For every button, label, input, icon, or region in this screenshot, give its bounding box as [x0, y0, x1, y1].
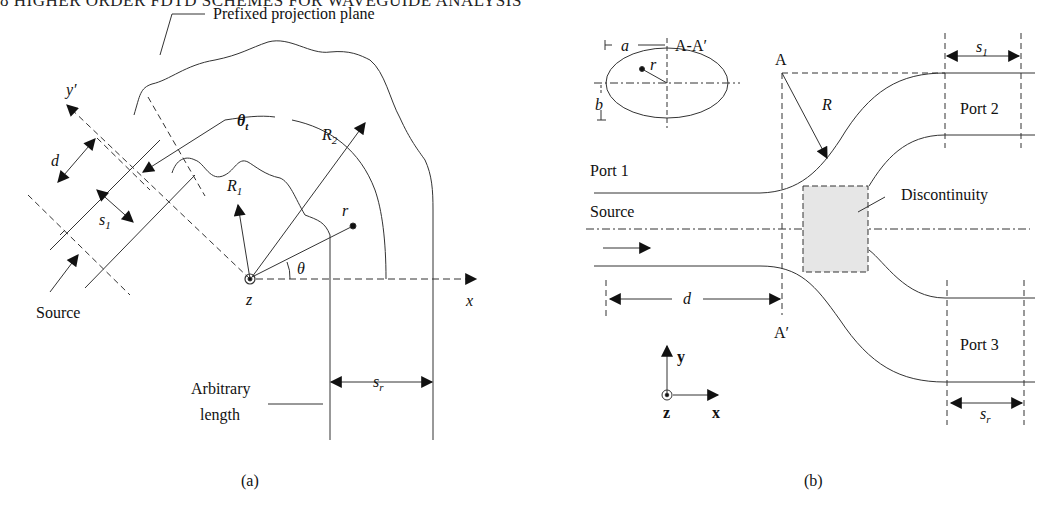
- label-z: z: [245, 291, 253, 308]
- label-projection-plane: Prefixed projection plane: [213, 5, 375, 23]
- discontinuity-region: [803, 186, 868, 272]
- label-port3: Port 3: [960, 336, 999, 353]
- label-r: r: [342, 202, 349, 219]
- label-d-b: d: [683, 290, 692, 307]
- waveguide-lower-wall: [594, 266, 1035, 382]
- ellipse-r-point: [640, 67, 645, 72]
- label-theta-t: θt: [237, 112, 249, 132]
- source-arrow: [50, 255, 78, 292]
- source-plane-outer: [28, 195, 130, 295]
- triad-z-dot: [665, 393, 669, 397]
- label-arbitrary-line1: Arbitrary: [191, 380, 251, 398]
- label-section-AA: A-A′: [675, 37, 707, 54]
- projection-plane-leader: [160, 14, 205, 55]
- y-prime-axis: [67, 105, 250, 279]
- label-port1: Port 1: [590, 162, 629, 179]
- waveguide-upper-wall: [594, 73, 1035, 193]
- figure-b: [586, 33, 1035, 425]
- source-plane-inner: [97, 138, 150, 190]
- caption-b: (b): [804, 472, 823, 490]
- label-x: x: [465, 292, 473, 309]
- origin-dot: [248, 277, 252, 281]
- port-line-3: [60, 230, 65, 235]
- label-s1-b: s1: [976, 38, 988, 58]
- label-discontinuity: Discontinuity: [901, 186, 988, 204]
- label-arbitrary-line2: length: [200, 406, 240, 424]
- theta-t-arrow: [143, 120, 225, 172]
- r-point: [350, 223, 356, 229]
- R-arrow: [782, 73, 827, 158]
- label-R: R: [821, 96, 832, 113]
- caption-a: (a): [241, 472, 259, 490]
- outer-boundary: [134, 41, 433, 440]
- figure-a: [28, 14, 476, 440]
- label-R1: R1: [226, 177, 242, 197]
- theta-arc: [287, 262, 290, 279]
- label-source: Source: [36, 304, 80, 321]
- R2-vector: [252, 123, 365, 277]
- label-a: a: [621, 37, 629, 54]
- label-sr: sr: [373, 373, 384, 393]
- label-s1: s1: [99, 211, 111, 231]
- label-b: b: [595, 96, 603, 113]
- label-R2: R2: [321, 126, 338, 146]
- theta-t-arc: [225, 116, 386, 279]
- label-port2: Port 2: [960, 100, 999, 117]
- label-sr-b: sr: [980, 405, 991, 425]
- label-y-prime: y′: [64, 81, 77, 99]
- d-dimension-arrow: [58, 139, 95, 182]
- label-theta: θ: [297, 260, 305, 277]
- label-d: d: [51, 152, 60, 169]
- R1-vector: [238, 205, 250, 279]
- port-line-2: [85, 175, 195, 288]
- label-axis-z: z: [663, 404, 670, 421]
- port2-lower-wall: [869, 135, 1035, 186]
- label-A-prime: A′: [774, 324, 789, 341]
- port-line-1: [50, 140, 160, 250]
- label-A: A: [775, 51, 787, 68]
- label-axis-y: y: [677, 348, 685, 366]
- figure-svg: Prefixed projection plane y′ d θt R1 R2 …: [0, 0, 1053, 509]
- port3-upper-wall: [869, 250, 1035, 298]
- label-axis-x: x: [712, 404, 720, 421]
- projection-plane-line: [148, 97, 205, 196]
- label-ellipse-r: r: [650, 56, 657, 73]
- label-source-b: Source: [590, 203, 634, 220]
